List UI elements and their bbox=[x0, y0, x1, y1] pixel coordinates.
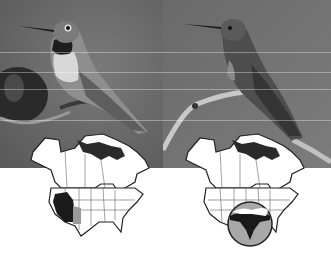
north-america-map-icon bbox=[180, 130, 320, 248]
magnifier-inset bbox=[228, 202, 272, 246]
north-america-map-icon bbox=[25, 130, 165, 248]
range-map-right bbox=[180, 130, 320, 248]
range-map-left bbox=[25, 130, 165, 248]
